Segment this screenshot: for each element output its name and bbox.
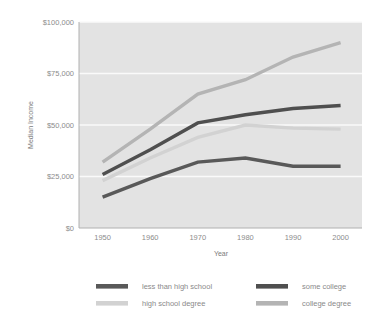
y-axis-title: Median Income [27,101,34,149]
legend-label-high-school-degree: high school degree [142,299,205,308]
legend-swatch-less-than-high-school [96,284,128,289]
x-axis-tick-labels: 1950 1960 1970 1980 1990 2000 [94,233,349,242]
y-tick-label-75000: $75,000 [47,69,74,78]
x-tick-label-1950: 1950 [94,233,111,242]
legend-label-some-college: some college [302,282,346,291]
chart-svg: $100,000 $75,000 $50,000 $25,000 $0 1950… [0,0,383,327]
y-tick-label-25000: $25,000 [47,172,74,181]
chart-legend: less than high schoolsome collegehigh sc… [96,282,351,308]
y-tick-label-100000: $100,000 [43,18,74,27]
y-tick-label-0: $0 [66,224,74,233]
y-tick-label-50000: $50,000 [47,121,74,130]
x-tick-label-1960: 1960 [142,233,159,242]
x-tick-label-2000: 2000 [332,233,349,242]
x-tick-label-1970: 1970 [189,233,206,242]
legend-swatch-high-school-degree [96,301,128,306]
legend-swatch-college-degree [256,301,288,306]
x-tick-label-1980: 1980 [237,233,254,242]
legend-label-college-degree: college degree [302,299,351,308]
y-axis-tick-labels: $100,000 $75,000 $50,000 $25,000 $0 [43,18,74,233]
legend-swatch-some-college [256,284,288,289]
line-chart-median-income-by-education: $100,000 $75,000 $50,000 $25,000 $0 1950… [0,0,383,327]
x-axis-title: Year [214,250,229,257]
legend-label-less-than-high-school: less than high school [142,282,212,291]
x-tick-label-1990: 1990 [285,233,302,242]
